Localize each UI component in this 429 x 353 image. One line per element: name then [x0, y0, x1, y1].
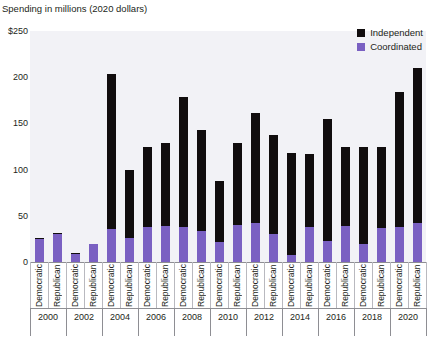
x-axis-party-label: Democratic	[142, 265, 152, 307]
y-axis-tick-label: 100	[13, 165, 28, 175]
x-axis-party-label: Republican	[340, 265, 350, 307]
bar-segment-coordinated	[359, 244, 368, 262]
bar-segment-coordinated	[269, 234, 278, 262]
bar-2002-republican[interactable]	[89, 244, 98, 262]
y-axis-tick-label: 0	[23, 257, 28, 267]
bar-segment-coordinated	[107, 229, 116, 262]
bar-segment-independent	[341, 147, 350, 226]
bar-segment-coordinated	[413, 223, 422, 262]
x-axis-tick	[408, 262, 409, 308]
legend-item-independent: Independent	[357, 27, 423, 38]
x-axis-tick	[48, 262, 49, 308]
x-axis-tick	[84, 262, 85, 308]
x-axis-tick	[156, 262, 157, 308]
x-axis-year-tick	[426, 308, 427, 336]
bar-2012-democratic[interactable]	[251, 113, 260, 262]
bar-2020-democratic[interactable]	[395, 92, 404, 262]
x-axis-party-label: Democratic	[70, 265, 80, 307]
bar-segment-coordinated	[35, 239, 44, 262]
legend-label-coordinated: Coordinated	[370, 41, 422, 52]
bar-2004-democratic[interactable]	[107, 74, 116, 262]
x-axis-tick	[210, 262, 211, 308]
bar-segment-coordinated	[323, 241, 332, 262]
bar-2006-democratic[interactable]	[143, 147, 152, 262]
x-axis-tick	[30, 262, 31, 308]
bar-segment-independent	[269, 135, 278, 234]
bar-segment-coordinated	[251, 223, 260, 262]
bar-2006-republican[interactable]	[161, 143, 170, 262]
bar-2012-republican[interactable]	[269, 135, 278, 262]
bar-2004-republican[interactable]	[125, 170, 134, 262]
x-axis-year-label: 2008	[174, 312, 210, 322]
x-axis-tick	[120, 262, 121, 308]
x-axis-tick	[372, 262, 373, 308]
x-axis-tick	[300, 262, 301, 308]
bar-segment-independent	[287, 153, 296, 255]
x-axis-party-label: Democratic	[286, 265, 296, 307]
legend-item-coordinated: Coordinated	[357, 41, 423, 52]
bar-2010-republican[interactable]	[233, 143, 242, 262]
chart-axis-title: Spending in millions (2020 dollars)	[2, 3, 147, 14]
x-axis-year-label: 2010	[210, 312, 246, 322]
x-axis-tick	[138, 262, 139, 308]
chart-legend: Independent Coordinated	[357, 27, 423, 55]
x-axis-tick	[426, 262, 427, 308]
bar-segment-independent	[377, 147, 386, 227]
x-axis-party-label: Democratic	[250, 265, 260, 307]
bar-2008-democratic[interactable]	[179, 97, 188, 262]
bar-2018-republican[interactable]	[377, 147, 386, 262]
x-axis-party-label: Republican	[232, 265, 242, 307]
bar-2008-republican[interactable]	[197, 130, 206, 262]
x-axis-party-label: Democratic	[322, 265, 332, 307]
x-axis-tick	[282, 262, 283, 308]
x-axis-party-label: Democratic	[214, 265, 224, 307]
bar-segment-coordinated	[179, 227, 188, 262]
x-axis-year-label: 2002	[66, 312, 102, 322]
y-axis-labels: 050100150200$250	[0, 31, 28, 262]
bar-2000-republican[interactable]	[53, 233, 62, 262]
bar-segment-independent	[413, 68, 422, 223]
bar-segment-coordinated	[143, 227, 152, 262]
bar-2020-republican[interactable]	[413, 68, 422, 262]
bar-segment-independent	[233, 143, 242, 225]
bar-2010-democratic[interactable]	[215, 181, 224, 262]
x-axis-year-label: 2016	[318, 312, 354, 322]
x-axis-tick	[336, 262, 337, 308]
x-axis-tick	[228, 262, 229, 308]
x-axis-party-label: Republican	[124, 265, 134, 307]
bar-segment-independent	[395, 92, 404, 227]
bar-segment-independent	[251, 113, 260, 223]
bar-2014-democratic[interactable]	[287, 153, 296, 262]
bar-segment-coordinated	[287, 255, 296, 262]
bar-2014-republican[interactable]	[305, 154, 314, 262]
bar-2000-democratic[interactable]	[35, 238, 44, 262]
bar-2016-republican[interactable]	[341, 147, 350, 262]
x-axis-party-label: Democratic	[358, 265, 368, 307]
x-axis-party-label: Republican	[196, 265, 206, 307]
x-axis-party-label: Republican	[304, 265, 314, 307]
bar-segment-coordinated	[215, 242, 224, 262]
y-axis-tick-label: $250	[8, 26, 28, 36]
bar-segment-independent	[161, 143, 170, 226]
bar-2018-democratic[interactable]	[359, 147, 368, 262]
x-axis-year-label: 2020	[390, 312, 426, 322]
x-axis-party-label: Democratic	[106, 265, 116, 307]
bar-2002-democratic[interactable]	[71, 253, 80, 262]
x-axis-tick	[174, 262, 175, 308]
x-axis-year-divider	[30, 308, 426, 309]
bar-segment-independent	[125, 170, 134, 238]
x-axis-party-label: Democratic	[34, 265, 44, 307]
x-axis-party-label: Republican	[52, 265, 62, 307]
y-axis-tick-label: 50	[18, 211, 28, 221]
bars-layer	[30, 31, 426, 262]
legend-swatch-coordinated	[357, 43, 365, 51]
x-axis-year-label: 2012	[246, 312, 282, 322]
bar-2016-democratic[interactable]	[323, 119, 332, 262]
bar-segment-coordinated	[89, 244, 98, 262]
bar-segment-coordinated	[197, 231, 206, 262]
bar-segment-coordinated	[305, 227, 314, 262]
bar-segment-independent	[305, 154, 314, 227]
x-axis-party-label: Republican	[88, 265, 98, 307]
bar-segment-coordinated	[233, 225, 242, 262]
plot-area	[30, 31, 426, 262]
